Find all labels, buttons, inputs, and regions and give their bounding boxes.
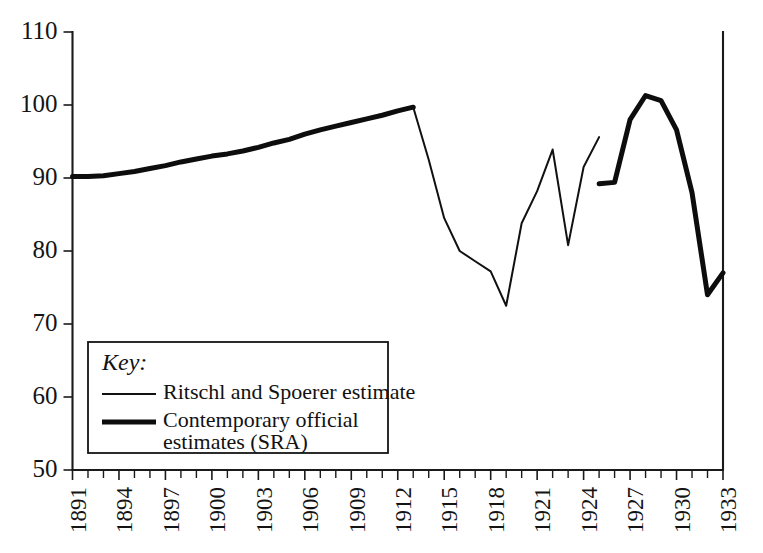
x-tick-label: 1915	[437, 487, 462, 533]
chart-container: 5060708090100110 18911894189719001903190…	[0, 0, 763, 553]
chart-legend: Key: Ritschl and Spoerer estimate Contem…	[88, 342, 415, 454]
legend-label-contemporary-official-line2: estimates (SRA)	[163, 429, 308, 454]
x-tick-label: 1906	[298, 487, 323, 533]
x-tick-label: 1891	[66, 487, 91, 533]
x-axis-minor-ticks	[73, 470, 724, 480]
y-tick-label: 100	[20, 90, 58, 117]
x-tick-label: 1897	[159, 487, 184, 533]
legend-title: Key:	[101, 349, 147, 375]
series-line-ritschl-spoerer	[413, 107, 599, 306]
x-tick-label: 1909	[345, 487, 370, 533]
y-tick-label: 50	[33, 455, 58, 482]
legend-label-ritschl-spoerer: Ritschl and Spoerer estimate	[163, 379, 415, 404]
x-tick-label: 1921	[530, 487, 555, 533]
y-tick-label: 60	[33, 382, 58, 409]
series-line-official	[73, 107, 414, 176]
y-tick-label: 110	[21, 17, 58, 44]
x-tick-label: 1927	[623, 487, 648, 533]
x-tick-label: 1918	[484, 487, 509, 533]
y-tick-label: 80	[33, 236, 58, 263]
x-tick-label: 1900	[205, 487, 230, 533]
y-tick-label: 70	[33, 309, 58, 336]
x-tick-label: 1903	[252, 487, 277, 533]
x-tick-label: 1933	[716, 487, 741, 533]
data-series	[73, 96, 724, 306]
x-tick-label: 1930	[670, 487, 695, 533]
series-line-official	[599, 96, 723, 295]
y-tick-label: 90	[33, 163, 58, 190]
y-axis-ticks	[64, 32, 73, 470]
line-chart: 5060708090100110 18911894189719001903190…	[0, 0, 763, 553]
y-axis-labels: 5060708090100110	[20, 17, 58, 482]
x-tick-label: 1924	[577, 487, 602, 534]
x-tick-label: 1912	[391, 487, 416, 533]
x-axis-labels: 1891189418971900190319061909191219151918…	[66, 487, 742, 534]
x-tick-label: 1894	[112, 487, 137, 534]
